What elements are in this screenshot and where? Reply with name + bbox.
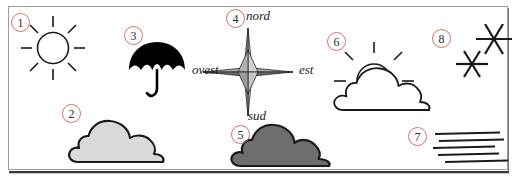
light-cloud-icon <box>66 118 170 168</box>
badge-4[interactable]: 4 <box>226 9 245 28</box>
compass-label-est: est <box>299 62 313 78</box>
compass-label-ovest: ovest <box>192 62 219 78</box>
snowflake-lower <box>456 51 488 77</box>
compass-label-nord: nord <box>246 8 270 24</box>
fog-lines-icon <box>432 130 510 166</box>
sun-behind-cloud-icon <box>330 40 434 118</box>
badge-7[interactable]: 7 <box>408 127 427 146</box>
umbrella-icon <box>126 40 188 102</box>
frame-shadow-bottom-light <box>9 173 509 174</box>
weather-symbols-figure: nord ovest est sud <box>0 0 517 185</box>
badge-6[interactable]: 6 <box>327 32 346 51</box>
badge-2[interactable]: 2 <box>62 104 81 123</box>
snowflakes-icon <box>452 24 516 86</box>
badge-3[interactable]: 3 <box>124 26 143 45</box>
badge-5[interactable]: 5 <box>231 125 250 144</box>
badge-8[interactable]: 8 <box>432 29 451 48</box>
badge-1[interactable]: 1 <box>11 13 30 32</box>
snowflake-upper <box>476 24 512 54</box>
